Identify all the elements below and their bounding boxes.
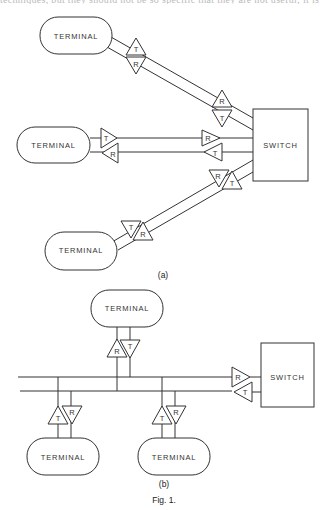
svg-text:R: R (205, 134, 211, 143)
panel-a-label: (a) (158, 270, 169, 280)
svg-text:R: R (69, 408, 75, 417)
terminal-b-top: TERMINAL (91, 290, 163, 327)
svg-text:T: T (243, 388, 248, 397)
transceiver-b-switch: R T (232, 367, 252, 402)
bus (18, 377, 232, 391)
svg-text:T: T (56, 414, 61, 423)
panel-b-label: (b) (159, 479, 170, 489)
svg-text:R: R (114, 347, 120, 356)
svg-text:T: T (134, 45, 139, 54)
panel-a: SWITCH TERMINAL TERMINAL TERMINAL (17, 17, 308, 280)
svg-text:T: T (220, 114, 225, 123)
transceiver-a-bottom-near: T R (121, 221, 153, 240)
svg-text:R: R (140, 230, 146, 239)
terminal-b-bottom-left-label: TERMINAL (41, 453, 85, 462)
terminal-b-top-label: TERMINAL (105, 304, 149, 313)
terminal-a-top-label: TERMINAL (54, 32, 98, 41)
panel-b: SWITCH R T TERMINAL R T TERMINAL (18, 290, 314, 489)
svg-text:R: R (173, 408, 179, 417)
terminal-b-bottom-right-label: TERMINAL (152, 453, 196, 462)
terminal-b-bottom-left: TERMINAL (27, 438, 99, 475)
terminal-a-top: TERMINAL (40, 17, 112, 54)
svg-text:T: T (129, 223, 134, 232)
transceiver-a-middle-near: T R (101, 128, 118, 163)
terminal-a-bottom: TERMINAL (45, 232, 117, 270)
svg-text:R: R (133, 60, 139, 69)
switch-b-label: SWITCH (270, 373, 304, 382)
svg-text:R: R (219, 97, 225, 106)
svg-text:T: T (213, 149, 218, 158)
svg-text:T: T (128, 342, 133, 351)
svg-text:R: R (110, 150, 116, 159)
switch-a-label: SWITCH (263, 141, 297, 150)
figure-1-diagram: SWITCH TERMINAL TERMINAL TERMINAL (0, 0, 328, 510)
svg-text:R: R (215, 172, 221, 181)
terminal-a-middle-label: TERMINAL (31, 141, 75, 150)
terminal-a-middle: TERMINAL (17, 127, 90, 163)
svg-text:T: T (230, 179, 235, 188)
transceiver-b-bottom-right: T R (152, 406, 186, 424)
switch-b: SWITCH (261, 343, 314, 407)
transceiver-b-top: R T (107, 339, 140, 358)
svg-text:T: T (160, 414, 165, 423)
svg-text:R: R (235, 373, 241, 382)
transceiver-a-bottom-far: R T (209, 170, 242, 189)
transceiver-a-top-near: T R (126, 38, 146, 74)
transceiver-a-middle-far: R T (202, 130, 222, 161)
transceiver-b-bottom-left: T R (48, 406, 82, 424)
figure-caption: Fig. 1. (152, 495, 176, 505)
terminal-a-bottom-label: TERMINAL (59, 246, 103, 255)
switch-a: SWITCH (253, 109, 308, 181)
svg-text:T: T (104, 134, 109, 143)
terminal-b-bottom-right: TERMINAL (138, 438, 210, 475)
link-a-middle (115, 138, 253, 152)
